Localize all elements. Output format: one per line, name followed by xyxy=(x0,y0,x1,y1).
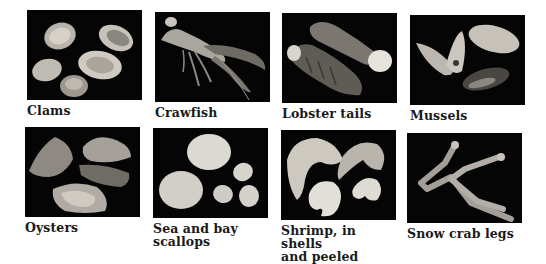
caption-scallops-line2: scallops xyxy=(153,235,268,248)
tile-mussels: Mussels xyxy=(410,15,525,122)
tile-scallops: Sea and bay scallops xyxy=(153,128,268,248)
caption-crawfish: Crawfish xyxy=(155,106,270,119)
clams-photo-icon xyxy=(27,10,142,100)
tile-shrimp: Shrimp, in shells and peeled xyxy=(281,130,396,263)
caption-scallops: Sea and bay scallops xyxy=(153,222,268,248)
mussels-photo-icon xyxy=(410,15,525,105)
shrimp-photo-icon xyxy=(281,130,396,220)
tile-oysters: Oysters xyxy=(25,127,140,234)
caption-clams: Clams xyxy=(27,104,142,117)
caption-shrimp-line2: and peeled xyxy=(281,250,396,263)
scallops-photo-icon xyxy=(153,128,268,218)
caption-mussels: Mussels xyxy=(410,109,525,122)
tile-lobster-tails: Lobster tails xyxy=(282,13,397,120)
caption-oysters: Oysters xyxy=(25,221,140,234)
lobster-tails-photo-icon xyxy=(282,13,397,103)
tile-crawfish: Crawfish xyxy=(155,12,270,119)
caption-lobster-tails: Lobster tails xyxy=(282,107,397,120)
crawfish-photo-icon xyxy=(155,12,270,102)
caption-shrimp-line1: Shrimp, in shells xyxy=(281,224,396,250)
oysters-photo-icon xyxy=(25,127,140,217)
snow-crab-legs-photo-icon xyxy=(407,133,522,223)
caption-shrimp: Shrimp, in shells and peeled xyxy=(281,224,396,263)
tile-clams: Clams xyxy=(27,10,142,117)
caption-snow-crab-legs: Snow crab legs xyxy=(407,227,522,240)
tile-snow-crab-legs: Snow crab legs xyxy=(407,133,522,240)
